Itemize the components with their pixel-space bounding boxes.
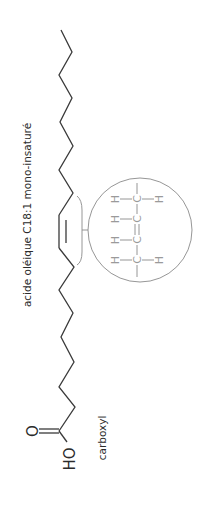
oleic-acid-diagram: O HO carboxyl acide oléique C18:1 mono-i… — [0, 0, 200, 505]
hydroxyl-label: HO — [61, 447, 79, 470]
carboxyl-label: carboxyl — [96, 416, 108, 461]
inset-atom: C — [131, 236, 144, 244]
carbonyl-oxygen: O — [24, 425, 42, 437]
inset-atom: H — [109, 215, 122, 223]
hydroxyl-bond — [59, 431, 67, 442]
inset-atom: H — [109, 236, 122, 244]
inset-atom: C — [131, 215, 144, 223]
inset-atom: C — [131, 256, 144, 264]
carbon-chain-upper — [59, 30, 73, 215]
diagram-title: acide oléique C18:1 mono-insaturé — [21, 123, 33, 307]
inset-atom: C — [131, 195, 144, 203]
inset-atom: H — [109, 256, 122, 264]
inset-atom: H — [153, 256, 166, 264]
highlight-bracket — [77, 196, 82, 265]
carbon-chain-lower — [59, 248, 75, 431]
inset-atoms: H C H H C H C H C H — [109, 195, 166, 264]
inset-circle — [88, 178, 192, 282]
inset-atom: H — [153, 195, 166, 203]
inset-atom: H — [109, 195, 122, 203]
